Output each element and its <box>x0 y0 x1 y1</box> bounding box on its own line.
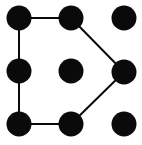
grid-dot-middle-left[interactable] <box>7 59 32 84</box>
grid-dot-top-right[interactable] <box>112 6 137 31</box>
grid-dot-bottom-right[interactable] <box>112 112 137 137</box>
grid-dot-layer <box>7 6 137 137</box>
grid-dot-center[interactable] <box>59 59 84 84</box>
grid-dot-middle-right[interactable] <box>112 60 137 85</box>
grid-dot-top-left[interactable] <box>7 6 32 31</box>
dot-grid-diagram <box>0 0 142 145</box>
figure-container: Dot grid with closed polygon <box>0 0 142 145</box>
grid-dot-bottom-left[interactable] <box>7 112 32 137</box>
grid-dot-bottom-middle[interactable] <box>59 112 84 137</box>
grid-dot-top-middle[interactable] <box>59 6 84 31</box>
